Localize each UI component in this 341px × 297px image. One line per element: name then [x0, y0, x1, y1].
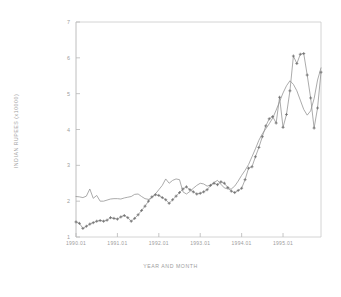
data-point-marker [275, 122, 278, 125]
data-point-marker [285, 113, 288, 116]
data-point-marker [99, 219, 102, 222]
data-point-marker [112, 217, 115, 220]
data-point-marker [95, 220, 98, 223]
y-tick-label: 4 [67, 127, 70, 133]
y-tick-label: 3 [67, 162, 70, 168]
data-point-marker [247, 167, 250, 170]
x-axis-ticks: 1990.011991.011992.011993.011994.011995.… [66, 233, 293, 246]
data-point-marker [199, 192, 202, 195]
y-tick-label: 6 [67, 55, 70, 61]
y-tick-label: 5 [67, 91, 70, 97]
x-tick-label: 1991.01 [107, 240, 127, 246]
data-point-marker [313, 127, 316, 130]
data-point-marker [254, 155, 257, 158]
chart-figure: 1234567 1990.011991.011992.011993.011994… [0, 0, 341, 297]
y-axis-title: INDIAN RUPEES (x10000) [13, 81, 19, 181]
x-tick-label: 1995.01 [273, 240, 293, 246]
data-point-marker [309, 96, 312, 99]
plot-frame [76, 22, 321, 237]
y-tick-label: 7 [67, 19, 70, 25]
data-point-marker [244, 178, 247, 181]
data-point-marker [257, 146, 260, 149]
data-point-marker [292, 55, 295, 58]
data-point-marker [306, 74, 309, 77]
x-tick-label: 1993.01 [190, 240, 210, 246]
series-smooth-line [76, 68, 321, 201]
series-line [76, 68, 321, 201]
data-point-marker [295, 62, 298, 65]
data-point-marker [288, 89, 291, 92]
data-series-layer [75, 52, 323, 230]
data-point-marker [316, 107, 319, 110]
series-line [76, 54, 321, 229]
data-point-marker [299, 53, 302, 56]
data-point-marker [250, 165, 253, 168]
data-point-marker [75, 220, 78, 223]
x-tick-label: 1992.01 [149, 240, 169, 246]
x-tick-label: 1994.01 [232, 240, 252, 246]
line-chart: 1234567 1990.011991.011992.011993.011994… [0, 0, 341, 297]
data-point-marker [102, 220, 105, 223]
x-axis-title: YEAR AND MONTH [0, 263, 341, 269]
data-point-marker [92, 221, 95, 224]
data-point-marker [282, 126, 285, 129]
x-tick-label: 1990.01 [66, 240, 86, 246]
data-point-marker [302, 52, 305, 55]
y-tick-label: 2 [67, 198, 70, 204]
series-observed-plus-markers [75, 52, 323, 230]
y-axis-ticks: 1234567 [67, 19, 80, 240]
